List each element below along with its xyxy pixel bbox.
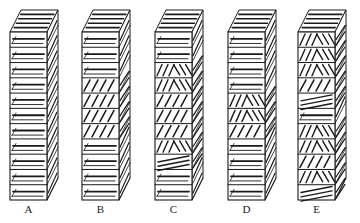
stack-a bbox=[10, 10, 58, 200]
stack-label-b: B bbox=[91, 203, 111, 215]
stack-label-d: D bbox=[237, 203, 257, 215]
stacked-columns-diagram bbox=[0, 0, 360, 223]
stack-c bbox=[155, 10, 203, 200]
stack-d bbox=[228, 10, 276, 200]
stack-e bbox=[298, 10, 346, 201]
stack-b bbox=[82, 10, 130, 200]
stack-label-c: C bbox=[164, 203, 184, 215]
stack-label-a: A bbox=[19, 203, 39, 215]
stack-label-e: E bbox=[307, 203, 327, 215]
